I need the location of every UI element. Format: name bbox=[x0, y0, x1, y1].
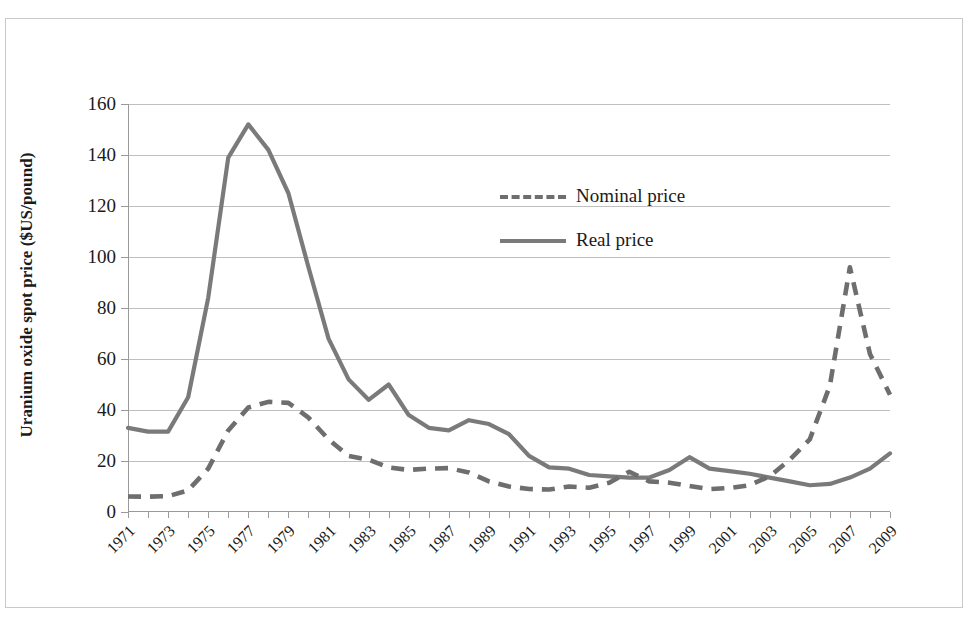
y-tick bbox=[121, 461, 128, 462]
y-tick-label: 160 bbox=[88, 93, 117, 115]
y-tick-label: 120 bbox=[88, 195, 117, 217]
x-tick bbox=[168, 512, 169, 518]
x-tick bbox=[469, 512, 470, 518]
x-tick bbox=[810, 512, 811, 518]
x-tick bbox=[429, 512, 430, 518]
legend-label-nominal-price: Nominal price bbox=[576, 186, 685, 206]
legend-swatch-real-price bbox=[500, 230, 566, 252]
x-tick bbox=[689, 512, 690, 518]
x-tick bbox=[288, 512, 289, 518]
series-line-nominal-price bbox=[128, 267, 890, 497]
x-tick bbox=[489, 512, 490, 518]
y-tick bbox=[121, 359, 128, 360]
y-tick bbox=[121, 104, 128, 105]
x-tick bbox=[228, 512, 229, 518]
x-tick bbox=[830, 512, 831, 518]
x-tick bbox=[589, 512, 590, 518]
y-tick-label: 100 bbox=[88, 246, 117, 268]
x-tick bbox=[629, 512, 630, 518]
x-tick bbox=[449, 512, 450, 518]
x-tick bbox=[649, 512, 650, 518]
series-paths bbox=[128, 104, 890, 512]
y-tick-label: 20 bbox=[97, 450, 116, 472]
series-line-real-price bbox=[128, 124, 890, 485]
y-tick bbox=[121, 257, 128, 258]
legend-swatch-nominal-price bbox=[500, 186, 566, 208]
x-tick bbox=[409, 512, 410, 518]
x-tick bbox=[669, 512, 670, 518]
legend-item-nominal-price: Nominal price bbox=[500, 186, 710, 208]
x-tick bbox=[750, 512, 751, 518]
y-tick-label: 80 bbox=[97, 297, 116, 319]
x-tick bbox=[148, 512, 149, 518]
x-tick bbox=[549, 512, 550, 518]
x-tick bbox=[509, 512, 510, 518]
y-axis-title: Uranium oxide spot price ($US/pound) bbox=[14, 80, 40, 510]
chart-legend: Nominal price Real price bbox=[500, 186, 710, 274]
x-tick bbox=[609, 512, 610, 518]
x-tick bbox=[329, 512, 330, 518]
y-tick bbox=[121, 155, 128, 156]
x-tick bbox=[389, 512, 390, 518]
x-tick bbox=[569, 512, 570, 518]
x-tick bbox=[208, 512, 209, 518]
x-tick bbox=[248, 512, 249, 518]
x-tick bbox=[128, 512, 129, 518]
x-tick bbox=[850, 512, 851, 518]
y-tick-label: 60 bbox=[97, 348, 116, 370]
y-tick bbox=[121, 206, 128, 207]
x-tick bbox=[710, 512, 711, 518]
chart-figure: Uranium oxide spot price ($US/pound) 020… bbox=[0, 0, 974, 632]
x-tick bbox=[770, 512, 771, 518]
legend-label-real-price: Real price bbox=[576, 230, 654, 250]
x-tick bbox=[308, 512, 309, 518]
y-tick-label: 140 bbox=[88, 144, 117, 166]
x-tick bbox=[268, 512, 269, 518]
x-tick bbox=[529, 512, 530, 518]
x-tick bbox=[369, 512, 370, 518]
plot-area: 020406080100120140160 197119731975197719… bbox=[128, 104, 890, 512]
y-axis-title-text: Uranium oxide spot price ($US/pound) bbox=[17, 152, 37, 437]
y-tick bbox=[121, 308, 128, 309]
x-tick bbox=[870, 512, 871, 518]
x-tick bbox=[790, 512, 791, 518]
y-tick bbox=[121, 410, 128, 411]
x-tick bbox=[890, 512, 891, 518]
x-tick bbox=[730, 512, 731, 518]
x-tick bbox=[349, 512, 350, 518]
y-tick bbox=[121, 512, 128, 513]
chart-title bbox=[0, 0, 974, 12]
y-tick-label: 40 bbox=[97, 399, 116, 421]
x-tick bbox=[188, 512, 189, 518]
legend-item-real-price: Real price bbox=[500, 230, 710, 252]
y-tick-label: 0 bbox=[107, 501, 117, 523]
